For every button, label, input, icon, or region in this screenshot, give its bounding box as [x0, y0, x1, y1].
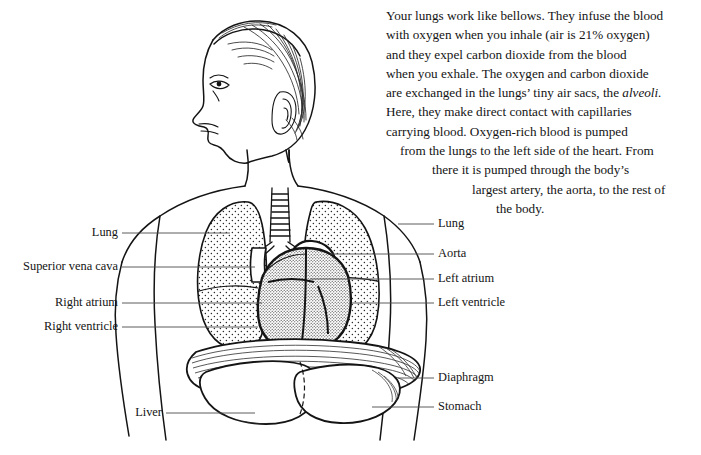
liver-label: Liver [135, 406, 162, 418]
explanatory-text-paragraph: Your lungs work like bellows. They infus… [386, 6, 698, 218]
text-line: carrying blood. Oxygen-rich blood is pum… [386, 122, 698, 141]
lung-left-label: Lung [92, 226, 118, 238]
superior-vena-cava-label: Superior vena cava [23, 260, 118, 272]
text-line: when you exhale. The oxygen and carbon d… [386, 64, 698, 83]
text-line: from the lungs to the left side of the h… [386, 141, 698, 160]
text-line: with oxygen when you inhale (air is 21% … [386, 25, 698, 44]
text-line: Your lungs work like bellows. They infus… [386, 6, 698, 25]
heart [258, 248, 351, 352]
right-ventricle-label: Right ventricle [44, 320, 118, 332]
right-atrium-label: Right atrium [55, 296, 118, 308]
text-line: largest artery, the aorta, to the rest o… [386, 180, 698, 199]
left-ventricle-label: Left ventricle [438, 296, 505, 308]
text-line: and they expel carbon dioxide from the b… [386, 45, 698, 64]
explanatory-text-block: Your lungs work like bellows. They infus… [386, 6, 698, 218]
text-line: Here, they make direct contact with capi… [386, 102, 698, 121]
aorta-label: Aorta [438, 247, 466, 259]
diaphragm-label: Diaphragm [438, 371, 494, 383]
left-atrium-label: Left atrium [438, 272, 494, 284]
text-line-lead: are exchanged in the lungs’ tiny air sac… [386, 85, 622, 100]
text-line: there it is pumped through the body’s [386, 160, 698, 179]
text-line-with-italic: are exchanged in the lungs’ tiny air sac… [386, 83, 698, 102]
text-line: the body. [386, 199, 698, 218]
lung-right-label: Lung [438, 217, 464, 229]
anatomy-figure: Your lungs work like bellows. They infus… [0, 0, 701, 455]
stomach-label: Stomach [438, 400, 481, 412]
alveoli-italic-term: alveoli. [622, 85, 661, 100]
